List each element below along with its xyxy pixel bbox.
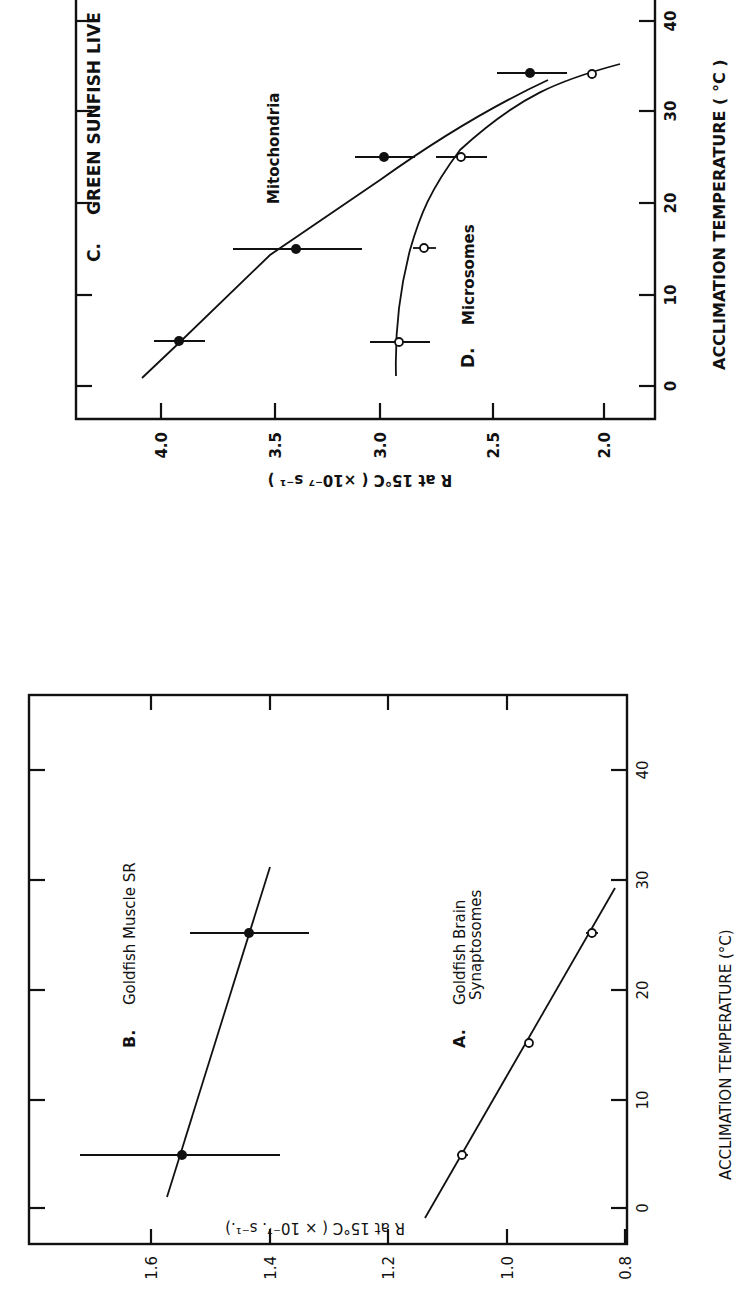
top-chart-frame <box>76 0 655 419</box>
top-x-ticks <box>76 21 655 386</box>
svg-text:0: 0 <box>634 1203 652 1213</box>
svg-text:20: 20 <box>634 980 652 999</box>
muscle-sr-fit-line <box>167 867 270 1197</box>
microsomes-points <box>370 70 596 346</box>
series-b-label: Goldfish Muscle SR <box>121 862 139 1005</box>
series-c-label: Mitochondria <box>265 93 283 205</box>
bottom-x-ticks <box>29 770 627 1208</box>
microsomes-fit-line <box>396 64 620 376</box>
svg-text:10: 10 <box>634 1090 652 1109</box>
series-a-letter: A. <box>450 1029 469 1048</box>
bottom-y-axis-title: R at 15°C ( × 10⁻⁷. s⁻¹.) <box>225 1219 405 1237</box>
bottom-x-axis-title: ACCLIMATION TEMPERATURE (°C) <box>717 929 735 1180</box>
figure-canvas: 0 10 20 30 40 4.0 3.5 3.0 2.5 2.0 ACCLIM… <box>0 0 745 1299</box>
top-y-tick-labels: 4.0 3.5 3.0 2.5 2.0 <box>153 432 614 459</box>
svg-text:1.2: 1.2 <box>380 1256 398 1280</box>
svg-text:0: 0 <box>662 381 680 391</box>
svg-text:20: 20 <box>662 193 680 214</box>
bottom-x-tick-labels: 0 10 20 30 40 <box>634 760 652 1212</box>
svg-text:40: 40 <box>662 11 680 32</box>
svg-text:2.0: 2.0 <box>596 432 614 459</box>
bottom-chart: 0 10 20 30 40 1.6 1.4 1.2 1.0 0.8 ACCLIM… <box>29 695 735 1280</box>
svg-text:3.5: 3.5 <box>267 432 285 459</box>
bottom-chart-frame <box>29 695 627 1244</box>
svg-text:30: 30 <box>662 101 680 122</box>
series-d-letter: D. <box>458 347 478 368</box>
bottom-y-tick-labels: 1.6 1.4 1.2 1.0 0.8 <box>143 1256 635 1280</box>
top-x-axis-title: ACCLIMATION TEMPERATURE ( °C ) <box>710 59 729 370</box>
svg-text:40: 40 <box>634 760 652 779</box>
mitochondria-points <box>154 68 567 346</box>
mitochondria-fit-line <box>142 80 548 378</box>
svg-text:1.6: 1.6 <box>143 1256 161 1280</box>
svg-text:2.5: 2.5 <box>485 432 503 459</box>
svg-text:0.8: 0.8 <box>617 1256 635 1280</box>
bottom-y-ticks <box>151 695 625 1244</box>
top-panel-letter-c: C. <box>84 243 104 262</box>
top-panel-title: GREEN SUNFISH LIVE <box>84 12 104 215</box>
series-a-label-line2: Synaptosomes <box>467 889 485 1000</box>
svg-text:1.4: 1.4 <box>262 1256 280 1280</box>
series-d-label: Microsomes <box>460 224 478 325</box>
top-chart: 0 10 20 30 40 4.0 3.5 3.0 2.5 2.0 ACCLIM… <box>76 0 729 489</box>
series-b-letter: B. <box>120 1030 139 1048</box>
top-y-ticks <box>161 403 604 419</box>
svg-text:1.0: 1.0 <box>499 1256 517 1280</box>
svg-text:4.0: 4.0 <box>153 432 171 459</box>
top-y-axis-title: R at 15°C ( ×10⁻⁷ s⁻¹ ) <box>268 471 453 489</box>
svg-text:10: 10 <box>662 285 680 306</box>
muscle-sr-points <box>80 928 309 1160</box>
svg-text:30: 30 <box>634 870 652 889</box>
top-x-tick-labels: 0 10 20 30 40 <box>662 11 680 392</box>
svg-text:3.0: 3.0 <box>372 432 390 459</box>
